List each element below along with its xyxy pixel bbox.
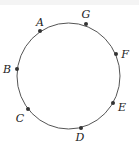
point-a bbox=[38, 29, 42, 33]
label-f: F bbox=[120, 48, 129, 61]
circle-diagram: AGFBECD bbox=[0, 0, 139, 147]
point-f bbox=[114, 52, 118, 56]
point-d bbox=[79, 126, 83, 130]
point-b bbox=[15, 67, 19, 71]
circle bbox=[17, 23, 120, 129]
label-e: E bbox=[117, 101, 126, 114]
label-d: D bbox=[75, 131, 85, 144]
label-g: G bbox=[82, 8, 91, 21]
point-g bbox=[84, 22, 88, 26]
label-b: B bbox=[2, 63, 11, 76]
label-a: A bbox=[35, 16, 44, 29]
label-c: C bbox=[16, 112, 25, 125]
point-e bbox=[111, 101, 115, 105]
point-c bbox=[26, 107, 30, 111]
